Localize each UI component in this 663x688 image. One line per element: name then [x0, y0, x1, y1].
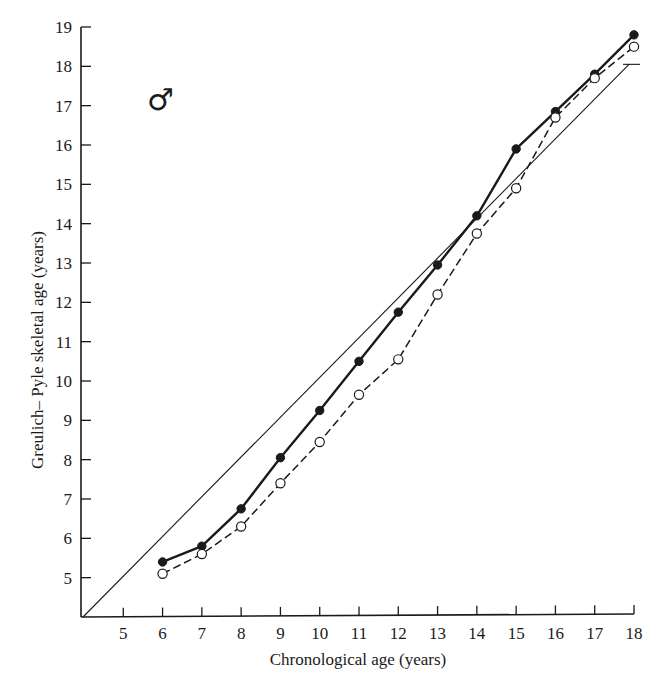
- open-circle-marker: [472, 229, 481, 238]
- filled-circle-marker: [512, 145, 520, 153]
- open-circle-marker: [158, 569, 167, 578]
- y-tick-label: 14: [55, 215, 73, 234]
- skeletal-age-chart: 56789101112131415161718 5678910111213141…: [0, 0, 663, 688]
- open-circle-marker: [433, 290, 442, 299]
- x-tick-label: 14: [468, 624, 486, 643]
- y-tick-label: 5: [64, 569, 73, 588]
- filled-circle-marker: [316, 406, 324, 414]
- open-circle-marker: [237, 522, 246, 531]
- x-tick-label: 18: [626, 624, 643, 643]
- y-axis-ticks: 5678910111213141516171819: [55, 18, 91, 588]
- x-tick-label: 8: [237, 624, 246, 643]
- x-tick-label: 11: [351, 624, 367, 643]
- y-tick-label: 16: [55, 136, 72, 155]
- data-series: [158, 31, 639, 579]
- x-axis-line: [81, 614, 634, 617]
- x-tick-label: 6: [158, 624, 167, 643]
- filled-circle-marker: [473, 212, 481, 220]
- x-axis-ticks: 56789101112131415161718: [119, 605, 642, 643]
- filled-circle-marker: [355, 357, 363, 365]
- open-circle-marker: [276, 479, 285, 488]
- x-tick-label: 16: [547, 624, 564, 643]
- filled-circle-marker: [276, 454, 284, 462]
- x-tick-label: 17: [586, 624, 604, 643]
- y-tick-label: 19: [55, 18, 72, 37]
- x-tick-label: 15: [508, 624, 525, 643]
- y-tick-label: 13: [55, 254, 72, 273]
- y-tick-label: 12: [55, 293, 72, 312]
- x-tick-label: 9: [276, 624, 285, 643]
- x-tick-label: 10: [311, 624, 328, 643]
- filled-circle-marker: [630, 31, 638, 39]
- y-tick-label: 18: [55, 57, 72, 76]
- y-tick-label: 15: [55, 175, 72, 194]
- y-tick-label: 11: [56, 333, 72, 352]
- x-tick-label: 5: [119, 624, 128, 643]
- open-circle-marker: [590, 74, 599, 83]
- male-symbol-icon: ♂: [147, 82, 174, 117]
- open-circle-marker: [315, 437, 324, 446]
- filled-circle-marker: [394, 308, 402, 316]
- identity-line: [83, 64, 640, 617]
- x-tick-label: 13: [429, 624, 446, 643]
- y-tick-label: 9: [64, 411, 73, 430]
- x-tick-label: 7: [198, 624, 207, 643]
- y-tick-label: 8: [64, 451, 73, 470]
- y-tick-label: 17: [55, 97, 73, 116]
- open-circle-marker: [629, 42, 638, 51]
- y-tick-label: 7: [64, 490, 73, 509]
- filled-circle-marker: [237, 505, 245, 513]
- open-circle-marker: [394, 355, 403, 364]
- y-tick-label: 6: [64, 529, 73, 548]
- filled-circle-marker: [158, 558, 166, 566]
- open-circle-marker: [551, 113, 560, 122]
- open-circle-marker: [512, 184, 521, 193]
- open-circle-marker: [197, 549, 206, 558]
- identity-diagonal: [83, 64, 629, 617]
- y-axis-title: Greulich– Pyle skeletal age (years): [28, 231, 47, 469]
- x-axis-title: Chronological age (years): [270, 650, 447, 669]
- filled-circle-marker: [433, 261, 441, 269]
- x-tick-label: 12: [390, 624, 407, 643]
- y-tick-label: 10: [55, 372, 72, 391]
- open-circle-marker: [354, 390, 363, 399]
